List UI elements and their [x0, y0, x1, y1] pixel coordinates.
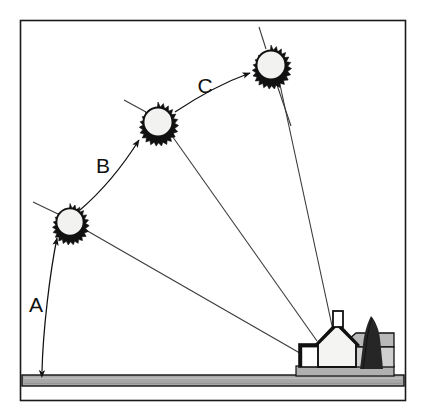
carport-post: [299, 346, 302, 367]
arc-label-c: C: [197, 74, 212, 97]
ground-strip: [22, 375, 404, 386]
arc-label-a: A: [29, 293, 43, 316]
diagram-canvas: A B C: [0, 0, 425, 416]
arc-label-b: B: [96, 154, 110, 177]
sun-position-diagram: A B C: [0, 0, 425, 416]
sun-a-disc: [56, 208, 83, 235]
chimney: [333, 311, 343, 327]
sun-b-disc: [144, 108, 173, 137]
sun-c-disc: [257, 51, 286, 80]
